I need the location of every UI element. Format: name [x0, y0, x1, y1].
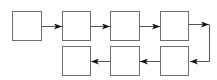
node-2	[63, 12, 91, 41]
arrow-n4-n5-loop	[190, 25, 210, 62]
flow-diagram	[0, 0, 217, 80]
node-6	[111, 47, 140, 76]
nodes	[13, 12, 189, 76]
node-5	[161, 47, 189, 76]
node-3	[111, 12, 140, 41]
node-1	[13, 12, 42, 41]
node-4	[161, 12, 189, 41]
node-7	[63, 47, 91, 76]
